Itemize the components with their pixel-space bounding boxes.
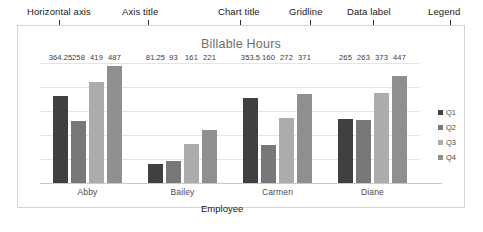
- data-label: 373: [375, 53, 388, 62]
- callout-label-data-label: Data label: [347, 6, 391, 17]
- callout-label-chart-title: Chart title: [218, 6, 260, 17]
- legend-label: Q3: [446, 138, 456, 147]
- data-label: 258: [72, 53, 85, 62]
- bar-q3[interactable]: [89, 82, 104, 183]
- bar-group: 265263373447: [332, 63, 414, 183]
- bar-q1[interactable]: [53, 96, 68, 183]
- callout-label-axis-title: Axis title: [122, 6, 158, 17]
- bar-wrapper: 263: [356, 63, 371, 183]
- category-label: Carmen: [237, 187, 319, 197]
- bar-q4[interactable]: [297, 94, 312, 183]
- bar-q1[interactable]: [148, 164, 163, 184]
- employee-axis-title: Employee: [201, 203, 243, 214]
- chart-legend: Q1Q2Q3Q4: [438, 108, 456, 162]
- data-label: 353.5: [241, 53, 260, 62]
- bar-wrapper: 161: [184, 63, 199, 183]
- legend-label: Q1: [446, 108, 456, 117]
- annotated-chart-screenshot: Horizontal axis Axis title Chart title G…: [0, 0, 483, 232]
- data-label: 221: [203, 53, 216, 62]
- data-label: 161: [185, 53, 198, 62]
- bar-q2[interactable]: [261, 145, 276, 183]
- bar-wrapper: 373: [374, 63, 389, 183]
- bar-wrapper: 272: [279, 63, 294, 183]
- bar-group: 353.5160272371: [237, 63, 319, 183]
- bar-q2[interactable]: [166, 161, 181, 183]
- legend-swatch-icon: [438, 155, 443, 160]
- callout-label-gridline: Gridline: [289, 6, 323, 17]
- data-label: 419: [90, 53, 103, 62]
- bar-q3[interactable]: [374, 93, 389, 183]
- chart-frame: Billable Hours 364.2525841948781.2593161…: [17, 25, 465, 208]
- legend-label: Q4: [446, 153, 456, 162]
- legend-swatch-icon: [438, 125, 443, 130]
- x-axis-line: [40, 183, 442, 184]
- bar-q4[interactable]: [392, 76, 407, 183]
- bar-wrapper: 221: [202, 63, 217, 183]
- bar-q1[interactable]: [243, 98, 258, 183]
- data-label: 487: [108, 53, 121, 62]
- bar-wrapper: 447: [392, 63, 407, 183]
- category-labels: AbbyBaileyCarmenDiane: [40, 187, 420, 197]
- bar-q1[interactable]: [338, 119, 353, 183]
- bar-wrapper: 93: [166, 63, 181, 183]
- bar-q2[interactable]: [71, 121, 86, 183]
- legend-swatch-icon: [438, 110, 443, 115]
- bar-wrapper: 81.25: [148, 63, 163, 183]
- bar-wrapper: 487: [107, 63, 122, 183]
- bar-q4[interactable]: [202, 130, 217, 183]
- legend-item-q1[interactable]: Q1: [438, 108, 456, 117]
- callout-label-legend: Legend: [428, 6, 460, 17]
- bar-wrapper: 258: [71, 63, 86, 183]
- legend-item-q4[interactable]: Q4: [438, 153, 456, 162]
- data-label: 93: [169, 53, 178, 62]
- bar-groups: 364.2525841948781.2593161221353.51602723…: [40, 63, 420, 183]
- bar-q3[interactable]: [184, 144, 199, 183]
- bar-q4[interactable]: [107, 66, 122, 183]
- callout-label-horizontal-axis: Horizontal axis: [27, 6, 91, 17]
- bar-group: 364.25258419487: [47, 63, 129, 183]
- category-label: Abby: [47, 187, 129, 197]
- bar-wrapper: 353.5: [243, 63, 258, 183]
- legend-item-q2[interactable]: Q2: [438, 123, 456, 132]
- bar-wrapper: 419: [89, 63, 104, 183]
- bar-wrapper: 371: [297, 63, 312, 183]
- bar-wrapper: 265: [338, 63, 353, 183]
- data-label: 265: [339, 53, 352, 62]
- bar-wrapper: 160: [261, 63, 276, 183]
- data-label: 447: [393, 53, 406, 62]
- legend-label: Q2: [446, 123, 456, 132]
- category-label: Bailey: [142, 187, 224, 197]
- data-label: 160: [262, 53, 275, 62]
- data-label: 263: [357, 53, 370, 62]
- legend-item-q3[interactable]: Q3: [438, 138, 456, 147]
- bar-q2[interactable]: [356, 120, 371, 183]
- bar-wrapper: 364.25: [53, 63, 68, 183]
- data-label: 81.25: [146, 53, 165, 62]
- bar-group: 81.2593161221: [142, 63, 224, 183]
- legend-swatch-icon: [438, 140, 443, 145]
- data-label: 272: [280, 53, 293, 62]
- chart-title: Billable Hours: [18, 37, 464, 51]
- data-label: 371: [298, 53, 311, 62]
- category-label: Diane: [332, 187, 414, 197]
- data-label: 364.25: [49, 53, 73, 62]
- bar-q3[interactable]: [279, 118, 294, 183]
